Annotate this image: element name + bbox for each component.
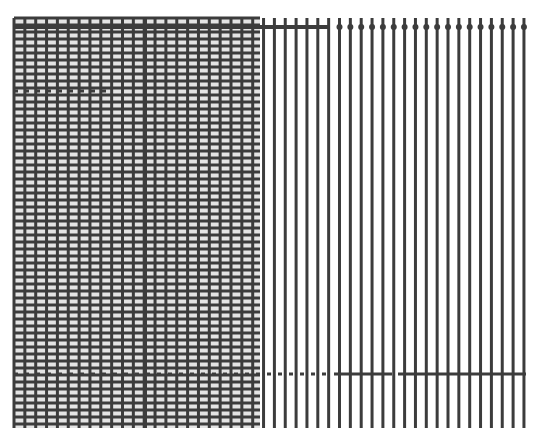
line-node-dot [423, 24, 429, 30]
line-node-dot [358, 24, 364, 30]
line-node-dot [412, 24, 418, 30]
line-node-dot [488, 24, 494, 30]
line-node-dot [499, 24, 505, 30]
line-node-dot [369, 24, 375, 30]
line-node-dot [434, 24, 440, 30]
line-node-dot [347, 24, 353, 30]
line-grid-pattern [0, 0, 543, 440]
line-node-dot [467, 24, 473, 30]
line-node-dot [478, 24, 484, 30]
line-node-dot [510, 24, 516, 30]
line-node-dot [380, 24, 386, 30]
line-node-dot [337, 24, 343, 30]
line-node-dot [456, 24, 462, 30]
line-node-dot [521, 24, 527, 30]
line-node-dot [402, 24, 408, 30]
line-node-dot [445, 24, 451, 30]
line-node-dot [391, 24, 397, 30]
